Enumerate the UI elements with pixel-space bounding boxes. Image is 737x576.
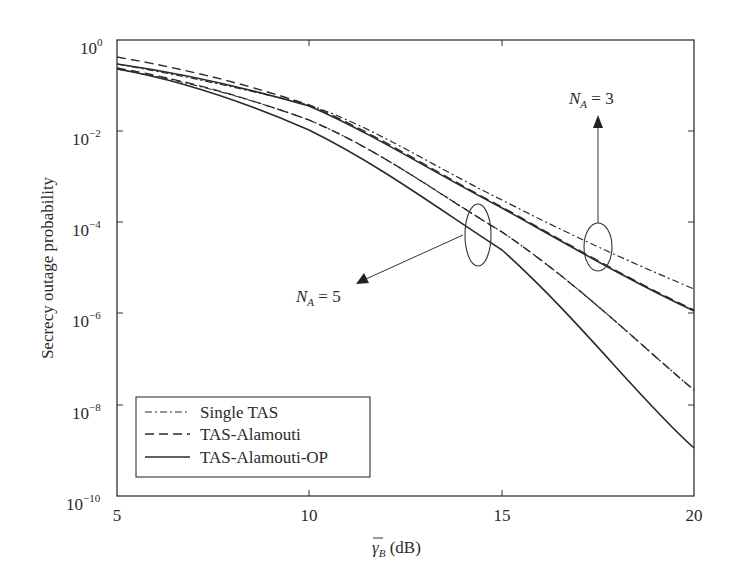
annotation-na5: NA = 5 <box>295 204 491 308</box>
x-tick-label: 20 <box>686 506 703 525</box>
x-tick-label: 5 <box>113 506 122 525</box>
svg-text:10−10: 10−10 <box>66 492 101 514</box>
legend-label-tas-alamouti-op: TAS-Alamouti-OP <box>200 448 328 467</box>
y-tick-labels: 100 10−2 10−4 10−6 10−8 10−10 <box>66 36 103 514</box>
svg-text:γB (dB): γB (dB) <box>372 538 421 559</box>
svg-text:NA = 5: NA = 5 <box>295 287 341 308</box>
y-axis-label: Secrecy outage probability <box>38 176 57 359</box>
svg-text:10−6: 10−6 <box>72 309 101 331</box>
legend: Single TAS TAS-Alamouti TAS-Alamouti-OP <box>136 397 370 477</box>
legend-label-tas-alamouti: TAS-Alamouti <box>200 425 301 444</box>
chart: 5 10 15 20 100 10−2 10−4 10−6 10−8 10−10… <box>0 0 737 576</box>
x-tick-label: 15 <box>494 506 511 525</box>
svg-text:100: 100 <box>80 36 103 58</box>
curves-na5 <box>117 68 694 448</box>
svg-text:10−8: 10−8 <box>72 401 101 423</box>
legend-label-single-tas: Single TAS <box>200 403 278 422</box>
svg-text:NA = 3: NA = 3 <box>568 89 614 110</box>
y-ticks <box>117 131 694 405</box>
svg-text:10−2: 10−2 <box>72 127 101 149</box>
arrowhead-icon <box>593 115 603 128</box>
x-tick-label: 10 <box>301 506 318 525</box>
svg-text:10−4: 10−4 <box>72 218 101 240</box>
curve-tas-alamouti-op-na5 <box>117 69 694 448</box>
x-axis-label: γB (dB) <box>372 538 421 559</box>
